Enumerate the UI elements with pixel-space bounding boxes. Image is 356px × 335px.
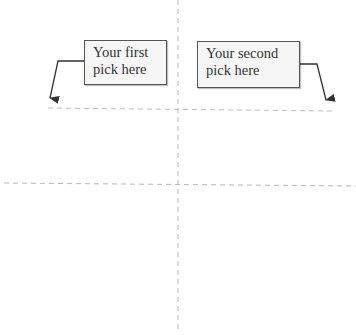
second-pick-line-2: pick here xyxy=(206,62,293,79)
first-pick-arrow xyxy=(50,61,84,98)
second-pick-arrow xyxy=(300,64,326,100)
first-pick-line-2: pick here xyxy=(93,61,160,78)
first-pick-callout: Your first pick here xyxy=(84,40,167,85)
horizontal-dashed-divider xyxy=(4,183,356,186)
second-pick-line-1: Your second xyxy=(206,45,293,62)
second-pick-callout: Your second pick here xyxy=(197,41,300,88)
first-pick-line-1: Your first xyxy=(93,44,160,61)
diagram-canvas: Your first pick here Your second pick he… xyxy=(0,0,356,335)
guide-lines xyxy=(0,0,356,335)
upper-dashed-line xyxy=(48,108,332,111)
